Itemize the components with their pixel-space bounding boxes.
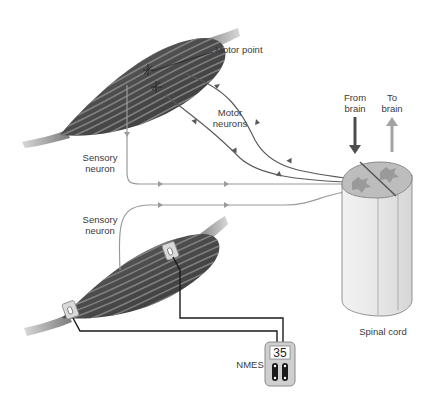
label-sensory-neuron-top: Sensory neuron — [80, 152, 120, 174]
nmes-display-value: 35 — [273, 346, 287, 360]
from-brain-arrow — [349, 117, 361, 154]
label-spinal-cord: Spinal cord — [355, 326, 411, 337]
sensory-neuron-arrowheads — [124, 132, 229, 208]
motor-neuron-2 — [165, 95, 345, 182]
spinal-cord-cross-section — [342, 162, 412, 198]
nmes-unit: 35 — [265, 342, 295, 386]
label-motor-point: Motor point — [215, 44, 263, 55]
wire-lower — [73, 318, 277, 343]
lower-muscle — [24, 207, 234, 342]
label-motor-neurons: Motor neurons — [210, 107, 250, 129]
label-from-brain: From brain — [340, 92, 370, 114]
to-brain-arrow — [386, 117, 398, 152]
label-to-brain: To brain — [377, 92, 407, 114]
spinal-cord — [342, 162, 412, 316]
nmes-diagram: 35 — [0, 0, 431, 400]
label-nmes: NMES — [236, 359, 264, 370]
upper-muscle — [22, 17, 240, 162]
label-sensory-neuron-bottom: Sensory neuron — [80, 214, 120, 236]
